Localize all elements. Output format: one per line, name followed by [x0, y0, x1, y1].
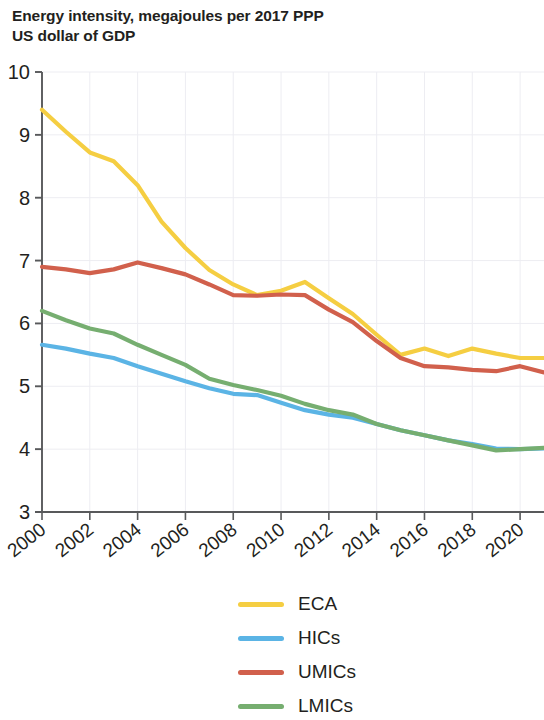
x-tick-label: 2016: [386, 519, 432, 562]
x-tick-label: 2000: [3, 519, 49, 562]
series-line-umics: [42, 262, 544, 372]
y-tick-label: 4: [19, 438, 30, 460]
x-tick-label: 2008: [194, 519, 240, 562]
x-tick-label: 2014: [338, 518, 385, 561]
x-tick-label: 2010: [242, 519, 288, 562]
y-tick-label: 7: [19, 250, 30, 272]
line-chart-plot: 345678910 200020022004200620082010201220…: [0, 0, 544, 585]
x-tick-label: 2018: [434, 519, 480, 562]
y-tick-label: 5: [19, 375, 30, 397]
legend-swatch-hics: [238, 636, 284, 641]
legend-label: UMICs: [298, 662, 356, 682]
series-line-lmics: [42, 311, 544, 451]
x-tick-label: 2004: [99, 518, 146, 561]
y-tick-label: 8: [19, 187, 30, 209]
y-tick-label: 10: [8, 61, 30, 83]
legend-swatch-lmics: [238, 704, 284, 709]
legend-label: ECA: [298, 594, 337, 614]
legend-label: HICs: [298, 628, 340, 648]
x-tick-label: 2020: [481, 519, 527, 562]
chart-legend: ECAHICsUMICsLMICs: [0, 588, 544, 720]
series-line-hics: [42, 345, 544, 449]
legend-item-lmics[interactable]: LMICs: [238, 696, 353, 716]
x-axis-tick-labels: 2000200220042006200820102012201420162018…: [3, 518, 527, 561]
y-tick-label: 9: [19, 124, 30, 146]
series-line-eca: [42, 110, 544, 358]
chart-page: Energy intensity, megajoules per 2017 PP…: [0, 0, 544, 720]
chart-svg: 345678910 200020022004200620082010201220…: [0, 0, 544, 585]
legend-label: LMICs: [298, 696, 353, 716]
x-tick-label: 2006: [147, 519, 193, 562]
legend-swatch-eca: [238, 602, 284, 607]
y-axis-tick-labels: 345678910: [8, 61, 30, 523]
x-tick-label: 2002: [51, 519, 97, 562]
data-series-group: [42, 110, 544, 451]
legend-item-hics[interactable]: HICs: [238, 628, 340, 648]
x-tick-label: 2012: [290, 519, 336, 562]
legend-swatch-umics: [238, 670, 284, 675]
legend-item-umics[interactable]: UMICs: [238, 662, 356, 682]
y-tick-label: 6: [19, 312, 30, 334]
y-tick-label: 3: [19, 501, 30, 523]
legend-item-eca[interactable]: ECA: [238, 594, 337, 614]
